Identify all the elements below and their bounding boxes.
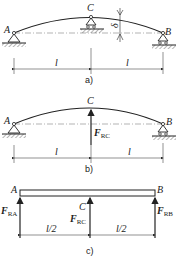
point-c-label: C [87,95,94,106]
span-label-2: l [128,146,131,157]
caption-a: a) [85,75,93,85]
span-label-2: l [126,57,129,68]
point-a-label: A [10,184,18,195]
panel-a: δ A C B l l a) [2,2,176,85]
caption-b: b) [85,164,93,174]
roller-support-b-icon [152,31,176,49]
point-c-label: C [87,2,94,13]
curved-beam [14,108,163,124]
span-label-1: l/2 [46,223,57,234]
point-c-label: C [79,201,86,212]
beam-diagram: δ A C B l l a) FR [0,0,180,265]
point-a-label: A [3,115,11,126]
span-label-1: l [55,146,58,157]
panel-c: A B C FRA FRC FRB l/2 l/2 c) [0,184,173,256]
roller-support-b-icon [152,122,176,140]
force-rb-label: FRB [156,205,173,218]
span-label-1: l [55,57,58,68]
deflection-label: δ [109,23,120,28]
force-rc-label: FRC [69,213,86,226]
point-b-label: B [165,26,171,37]
point-b-label: B [166,116,172,127]
point-a-label: A [3,24,11,35]
straight-beam [20,190,155,196]
force-ra-label: FRA [0,205,17,218]
span-label-2: l/2 [116,223,127,234]
force-rc-label: FRC [93,127,110,140]
panel-b: FRC A C B l l b) [2,95,176,174]
caption-c: c) [86,246,94,256]
point-b-label: B [157,184,163,195]
